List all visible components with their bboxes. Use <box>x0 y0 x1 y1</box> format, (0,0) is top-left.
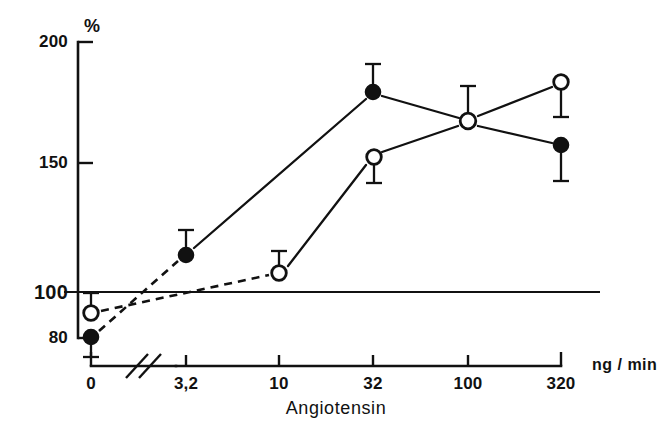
data-point-open-32 <box>367 150 382 165</box>
x-tick-label-32: 32 <box>363 374 382 394</box>
data-point-open-10 <box>272 266 287 281</box>
y-tick-label-150: 150 <box>6 153 68 173</box>
data-point-open-0 <box>84 306 99 321</box>
y-axis-unit-label: % <box>84 16 100 37</box>
filled-circle-markers <box>84 85 569 345</box>
y-tick-label-80: 80 <box>6 328 68 348</box>
x-tick-label-0: 0 <box>86 374 96 394</box>
y-tick-label-100: 100 <box>2 281 68 304</box>
x-tick-label-100: 100 <box>454 374 483 394</box>
x-tick-label-320: 320 <box>547 374 576 394</box>
data-point-filled-3.2 <box>179 248 194 263</box>
open-circle-markers <box>84 75 569 321</box>
data-point-filled-0 <box>84 330 99 345</box>
chart-figure: .axis-line { stroke: #111111; stroke-wid… <box>0 0 672 439</box>
data-point-filled-320 <box>554 138 569 153</box>
data-point-filled-32 <box>366 85 381 100</box>
x-axis <box>91 352 561 366</box>
data-point-shared-100 <box>460 113 476 129</box>
x-axis-unit-label: ng / min <box>592 356 657 374</box>
data-point-open-320 <box>554 75 569 90</box>
x-axis-title: Angiotensin <box>286 398 387 419</box>
open-circle-series-line <box>101 87 552 311</box>
x-tick-label-3-2: 3,2 <box>174 374 198 394</box>
y-tick-label-200: 200 <box>6 32 68 52</box>
x-tick-label-10: 10 <box>269 374 288 394</box>
filled-circle-series-line <box>99 96 552 331</box>
